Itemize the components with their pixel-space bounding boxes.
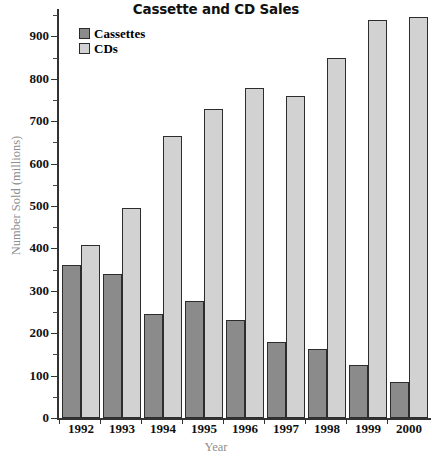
y-tick-major: [51, 164, 58, 165]
bar-cds-1994: [163, 136, 182, 418]
y-tick-minor: [53, 354, 58, 355]
bar-cassettes-1999: [349, 365, 368, 418]
bar-cds-2000: [409, 17, 428, 418]
x-tick-mark: [100, 419, 101, 424]
bar-cds-1999: [368, 20, 387, 418]
y-tick-major: [51, 376, 58, 377]
x-tick-mark: [346, 419, 347, 424]
y-tick-major: [51, 121, 58, 122]
y-tick-major: [51, 333, 58, 334]
bar-cassettes-1993: [103, 274, 122, 418]
y-tick-label: 200: [8, 325, 49, 341]
y-tick-minor: [53, 142, 58, 143]
y-tick-major: [51, 36, 58, 37]
y-tick-minor: [53, 312, 58, 313]
y-tick-minor: [53, 58, 58, 59]
x-tick-mark: [305, 419, 306, 424]
x-tick-mark: [223, 419, 224, 424]
y-tick-label: 900: [8, 28, 49, 44]
bar-cds-1997: [286, 96, 305, 418]
y-tick-minor: [53, 15, 58, 16]
plot-area: [57, 9, 431, 419]
bar-cds-1992: [81, 245, 100, 418]
y-tick-label: 700: [8, 113, 49, 129]
bar-cassettes-1996: [226, 320, 245, 418]
x-axis-title: Year: [0, 440, 432, 455]
y-tick-major: [51, 418, 58, 419]
x-axis-line: [57, 418, 431, 420]
bar-cassettes-1997: [267, 342, 286, 418]
y-tick-label: 300: [8, 283, 49, 299]
y-tick-minor: [53, 185, 58, 186]
y-axis-line: [57, 9, 59, 419]
bar-cassettes-1995: [185, 301, 204, 418]
bar-cassettes-1998: [308, 349, 327, 418]
y-tick-major: [51, 291, 58, 292]
x-tick-mark: [264, 419, 265, 424]
y-tick-minor: [53, 227, 58, 228]
y-tick-label: 600: [8, 156, 49, 172]
bar-cds-1998: [327, 58, 346, 418]
bar-cds-1996: [245, 88, 264, 418]
y-tick-label: 0: [8, 410, 49, 426]
bar-cassettes-1994: [144, 314, 163, 418]
x-tick-mark: [182, 419, 183, 424]
y-tick-minor: [53, 270, 58, 271]
y-tick-label: 100: [8, 368, 49, 384]
bar-chart: Cassette and CD Sales Cassettes CDs Numb…: [0, 0, 432, 456]
y-tick-label: 500: [8, 198, 49, 214]
x-tick-mark: [59, 419, 60, 424]
y-tick-label: 400: [8, 240, 49, 256]
y-tick-major: [51, 248, 58, 249]
bar-cassettes-2000: [390, 382, 409, 418]
bar-cds-1995: [204, 109, 223, 418]
y-tick-minor: [53, 397, 58, 398]
bar-cassettes-1992: [62, 265, 81, 418]
bar-cds-1993: [122, 208, 141, 418]
y-tick-major: [51, 79, 58, 80]
x-tick-mark: [141, 419, 142, 424]
y-tick-label: 800: [8, 71, 49, 87]
y-tick-minor: [53, 100, 58, 101]
x-tick-mark: [387, 419, 388, 424]
y-tick-major: [51, 206, 58, 207]
